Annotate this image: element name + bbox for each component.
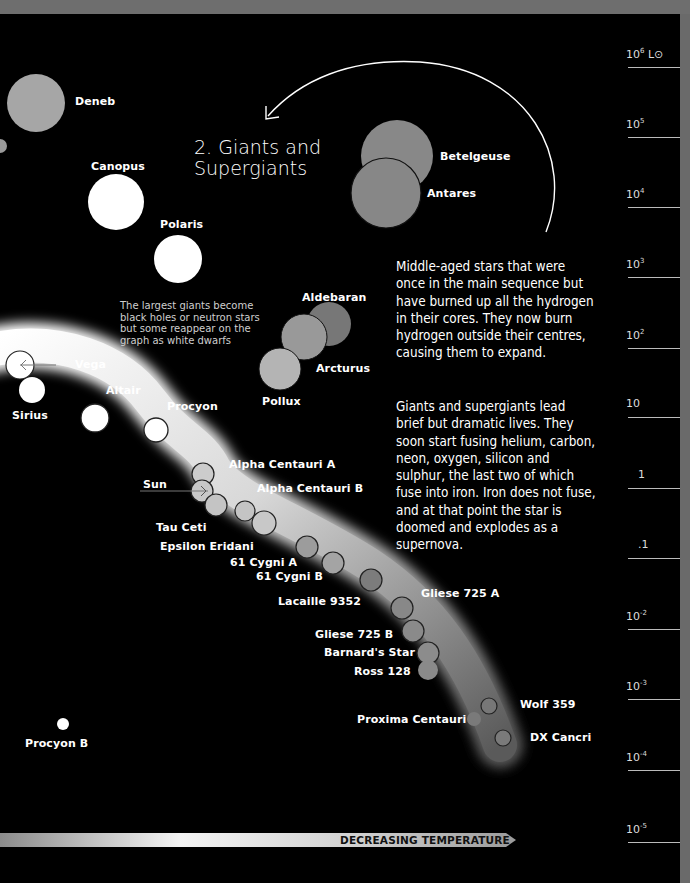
axis-tick: 106 L⊙ xyxy=(624,47,680,68)
label-tau-ceti: Tau Ceti xyxy=(156,521,207,534)
axis-gridline xyxy=(628,137,680,138)
axis-tick: 1 xyxy=(624,468,680,489)
star-polaris xyxy=(154,235,202,283)
axis-tick-label: 105 xyxy=(624,117,680,137)
axis-tick: 103 xyxy=(624,257,680,278)
star-ross-128 xyxy=(418,660,438,680)
label-gliese-725-a: Gliese 725 A xyxy=(421,587,499,600)
label-arcturus: Arcturus xyxy=(316,362,370,375)
axis-tick: .1 xyxy=(624,538,680,559)
label-sirius: Sirius xyxy=(12,409,48,422)
label-alpha-centauri-b: Alpha Centauri B xyxy=(257,482,363,495)
axis-tick: 102 xyxy=(624,328,680,349)
star-altair xyxy=(81,404,109,432)
star-proxima-centauri xyxy=(467,712,481,726)
label-altair: Altair xyxy=(106,384,141,397)
label-canopus: Canopus xyxy=(91,160,145,173)
axis-tick-label: 10-4 xyxy=(624,750,680,770)
star-gliese-725-b xyxy=(402,620,424,642)
axis-tick-label: .1 xyxy=(624,538,680,558)
label-deneb: Deneb xyxy=(75,95,115,108)
title-line-1: 2. Giants and xyxy=(194,137,321,158)
label-sun: Sun xyxy=(143,478,167,491)
star-lacaille-9352 xyxy=(360,569,382,591)
axis-gridline xyxy=(628,277,680,278)
axis-tick-label: 1 xyxy=(624,468,680,488)
star-antares xyxy=(351,158,421,228)
axis-tick: 105 xyxy=(624,117,680,138)
star-deneb xyxy=(7,74,65,132)
axis-tick: 10-5 xyxy=(624,822,680,843)
axis-gridline xyxy=(628,207,680,208)
paragraph-giants-fate: Giants and supergiants lead brief but dr… xyxy=(396,398,596,554)
label-wolf-359: Wolf 359 xyxy=(520,698,575,711)
label-alpha-centauri-a: Alpha Centauri A xyxy=(229,458,335,471)
star-sirius xyxy=(19,377,45,403)
label-lacaille-9352: Lacaille 9352 xyxy=(278,595,361,608)
axis-gridline xyxy=(628,699,680,700)
star-canopus xyxy=(88,174,144,230)
label-61-cygni-b: 61 Cygni B xyxy=(256,570,323,583)
label-aldebaran: Aldebaran xyxy=(302,291,367,304)
star-offscreen xyxy=(0,139,7,153)
axis-tick-label: 10-3 xyxy=(624,679,680,699)
axis-gridline xyxy=(628,348,680,349)
star-pollux xyxy=(259,348,301,390)
temperature-arrow-label: DECREASING TEMPERATURE xyxy=(340,834,510,846)
axis-tick-label: 106 L⊙ xyxy=(624,47,680,67)
star-epsilon-eridani xyxy=(252,511,276,535)
label-dx-cancri: DX Cancri xyxy=(530,731,591,744)
star-tau-ceti xyxy=(235,501,255,521)
star-procyon xyxy=(144,418,168,442)
axis-tick-label: 10-5 xyxy=(624,822,680,842)
axis-tick: 10 xyxy=(624,397,680,418)
label-proxima-centauri: Proxima Centauri xyxy=(357,713,466,726)
star-wolf-359 xyxy=(481,698,497,714)
star-procyon-b xyxy=(57,718,69,730)
section-title: 2. Giants and Supergiants xyxy=(194,137,321,179)
star-61-cygni-b xyxy=(322,552,344,574)
axis-gridline xyxy=(628,629,680,630)
label-gliese-725-b: Gliese 725 B xyxy=(315,628,393,641)
title-line-2: Supergiants xyxy=(194,158,321,179)
axis-tick: 10-3 xyxy=(624,679,680,700)
label-procyon: Procyon xyxy=(167,400,218,413)
axis-gridline xyxy=(628,67,680,68)
label-61-cygni-a: 61 Cygni A xyxy=(230,556,297,569)
star-alpha-centauri-b xyxy=(205,494,227,516)
axis-tick: 10-4 xyxy=(624,750,680,771)
white-dwarf-note: The largest giants become black holes or… xyxy=(120,300,270,346)
axis-tick-label: 102 xyxy=(624,328,680,348)
star-dx-cancri xyxy=(495,730,511,746)
axis-gridline xyxy=(628,417,680,418)
label-barnards-star: Barnard's Star xyxy=(324,646,415,659)
axis-tick: 104 xyxy=(624,187,680,208)
label-epsilon-eridani: Epsilon Eridani xyxy=(160,540,254,553)
axis-tick-label: 10 xyxy=(624,397,680,417)
axis-gridline xyxy=(628,842,680,843)
axis-tick: 10-2 xyxy=(624,609,680,630)
axis-gridline xyxy=(628,488,680,489)
label-polaris: Polaris xyxy=(160,218,203,231)
label-pollux: Pollux xyxy=(262,395,301,408)
label-procyon-b: Procyon B xyxy=(25,737,88,750)
label-vega: Vega xyxy=(75,358,106,371)
label-antares: Antares xyxy=(427,187,476,200)
star-61-cygni-a xyxy=(296,536,318,558)
axis-gridline xyxy=(628,770,680,771)
label-ross-128: Ross 128 xyxy=(354,665,411,678)
axis-tick-label: 10-2 xyxy=(624,609,680,629)
label-betelgeuse: Betelgeuse xyxy=(440,150,511,163)
axis-tick-label: 103 xyxy=(624,257,680,277)
paragraph-giants-intro: Middle-aged stars that were once in the … xyxy=(396,258,596,362)
star-gliese-725-a xyxy=(391,597,413,619)
axis-gridline xyxy=(628,558,680,559)
axis-tick-label: 104 xyxy=(624,187,680,207)
